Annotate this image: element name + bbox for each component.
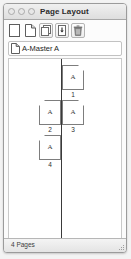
page-master-mark: A bbox=[47, 109, 52, 116]
window-title: Page Layout bbox=[40, 8, 89, 16]
new-master-page-icon[interactable] bbox=[23, 23, 37, 38]
close-button[interactable] bbox=[8, 8, 15, 15]
page-number-label: 3 bbox=[71, 127, 75, 134]
duplicate-pages-icon[interactable] bbox=[39, 23, 53, 38]
insert-pages-glyph bbox=[57, 25, 67, 36]
master-page-icon bbox=[11, 43, 20, 54]
page-number-label: 1 bbox=[71, 92, 75, 99]
delete-pages-icon[interactable] bbox=[71, 23, 85, 38]
page-thumbnail[interactable]: A bbox=[62, 65, 84, 90]
page-count-label: 4 Pages bbox=[11, 242, 35, 249]
page-layout-panel: Page Layout bbox=[0, 0, 131, 259]
page-master-mark: A bbox=[70, 109, 75, 116]
window-titlebar[interactable]: Page Layout bbox=[4, 4, 126, 20]
page-number-label: 4 bbox=[48, 162, 52, 169]
resize-grip-icon[interactable] bbox=[117, 243, 124, 250]
zoom-button[interactable] bbox=[28, 8, 35, 15]
page-master-mark: A bbox=[47, 144, 52, 151]
master-page-glyph bbox=[25, 24, 36, 37]
new-page-glyph bbox=[9, 24, 20, 37]
page-toolbar bbox=[4, 20, 126, 40]
page-thumbnail[interactable]: A bbox=[39, 100, 61, 125]
page-thumbnail[interactable]: A bbox=[62, 100, 84, 125]
duplicate-pages-glyph bbox=[41, 25, 51, 36]
insert-pages-icon[interactable] bbox=[55, 23, 69, 38]
page-item-3[interactable]: A 3 bbox=[62, 100, 84, 133]
trash-glyph bbox=[73, 25, 83, 36]
status-bar: 4 Pages bbox=[4, 238, 126, 252]
master-page-row[interactable]: A-Master A bbox=[8, 41, 122, 56]
pages-canvas[interactable]: A 1 A 2 A 3 A 4 bbox=[8, 58, 122, 238]
page-layout-window: Page Layout bbox=[3, 3, 127, 253]
page-thumbnail[interactable]: A bbox=[39, 135, 61, 160]
new-page-icon[interactable] bbox=[7, 23, 21, 38]
page-item-4[interactable]: A 4 bbox=[39, 135, 61, 168]
page-item-1[interactable]: A 1 bbox=[62, 65, 84, 98]
page-master-mark: A bbox=[70, 74, 75, 81]
page-item-2[interactable]: A 2 bbox=[39, 100, 61, 133]
master-page-label: A-Master A bbox=[22, 45, 59, 53]
page-number-label: 2 bbox=[48, 127, 52, 134]
minimize-button[interactable] bbox=[18, 8, 25, 15]
window-controls bbox=[8, 8, 35, 15]
